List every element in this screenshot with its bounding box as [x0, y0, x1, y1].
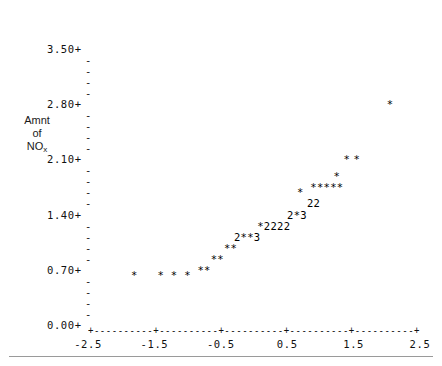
y-axis-minor-tick: -: [85, 176, 95, 187]
data-point-glyph: 3: [300, 210, 307, 221]
x-axis-tick-label: -0.5: [207, 339, 235, 350]
y-axis-minor-tick: -: [85, 165, 95, 176]
y-axis-minor-tick: -: [85, 187, 95, 198]
y-axis-minor-tick: -: [85, 243, 95, 254]
y-axis-tick-label: 2.10+: [47, 154, 93, 165]
y-axis-minor-tick: -: [85, 276, 95, 287]
y-axis-minor-tick: -: [85, 198, 95, 209]
y-axis-tick-label: 3.50+: [47, 44, 93, 55]
y-axis-minor-tick: -: [85, 143, 95, 154]
data-point-glyph: *: [184, 270, 191, 281]
y-axis-tick-label: 1.40+: [47, 210, 93, 221]
y-axis-minor-tick: -: [85, 254, 95, 265]
x-axis-tick-label: 1.5: [343, 339, 364, 350]
y-axis-title-line-1: Amnt: [8, 114, 66, 127]
y-axis-minor-tick: -: [85, 298, 95, 309]
footer-rule: [9, 356, 433, 357]
data-point-glyph: *: [204, 265, 211, 276]
data-point-glyph: 3: [254, 232, 261, 243]
y-axis-minor-tick: -: [85, 55, 95, 66]
x-axis-tick-label: 0.5: [277, 339, 298, 350]
data-point-glyph: *: [231, 243, 238, 254]
x-axis-tick-label: 2.5: [410, 339, 431, 350]
y-axis-minor-tick: -: [85, 121, 95, 132]
y-axis-minor-tick: -: [85, 232, 95, 243]
x-axis-tick-label: -1.5: [141, 339, 169, 350]
y-axis-minor-tick: -: [85, 132, 95, 143]
data-point-glyph: *: [158, 270, 165, 281]
y-axis-title-no: NO: [27, 140, 44, 152]
data-point-glyph: 2: [314, 198, 321, 209]
data-point-glyph: *: [131, 270, 138, 281]
data-point-glyph: *: [337, 182, 344, 193]
data-point-glyph: 2: [284, 221, 291, 232]
y-axis-minor-tick: -: [85, 287, 95, 298]
y-axis-minor-tick: -: [85, 309, 95, 320]
data-point-glyph: *: [353, 154, 360, 165]
y-axis-minor-tick: -: [85, 77, 95, 88]
data-point-glyph: *: [334, 171, 341, 182]
data-point-glyph: *: [171, 270, 178, 281]
y-axis-tick-label: 2.80+: [47, 99, 93, 110]
x-axis-tick-labels: -2.5-1.5-0.50.51.52.5: [0, 339, 442, 353]
y-axis-title: Amnt of NOx: [8, 114, 66, 154]
data-point-glyph: *: [387, 99, 394, 110]
data-point-glyph: *: [217, 254, 224, 265]
y-axis-minor-tick: -: [85, 110, 95, 121]
y-axis-tick-label: 0.00+: [47, 320, 93, 331]
y-axis-title-line-2: of: [8, 127, 66, 140]
data-point-glyph: *: [297, 187, 304, 198]
y-axis-minor-tick: -: [85, 66, 95, 77]
y-axis-tick-label: 0.70+: [47, 265, 93, 276]
y-axis-minor-tick: -: [85, 88, 95, 99]
character-scatter-plot: Amnt of NOx 0.00+----0.70+----1.40+----2…: [0, 0, 442, 366]
x-axis-tick-label: -2.5: [74, 339, 102, 350]
y-axis-minor-tick: -: [85, 221, 95, 232]
y-axis-title-line-3: NOx: [8, 140, 66, 154]
data-point-glyph: *: [343, 154, 350, 165]
x-axis-line: +----------+----------+----------+------…: [88, 325, 420, 336]
